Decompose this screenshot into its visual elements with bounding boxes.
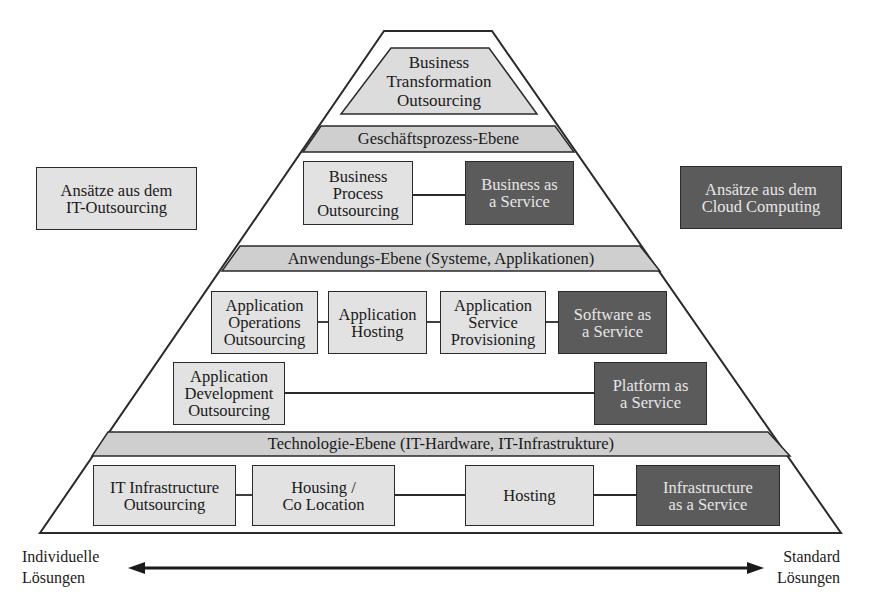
band-label-business-process: Geschäftsprozess-Ebene [303,129,574,149]
box-it-infrastructure-outsourcing: IT Infrastructure Outsourcing [93,465,236,526]
legend-cloud-computing: Ansätze aus dem Cloud Computing [680,166,842,229]
box-business-as-a-service: Business as a Service [465,161,574,225]
box-software-as-a-service: Software as a Service [558,291,667,354]
box-application-development-outsourcing: Application Development Outsourcing [173,362,285,425]
box-application-service-provisioning: Application Service Provisioning [440,291,546,354]
box-business-process-outsourcing: Business Process Outsourcing [303,161,413,225]
band-label-technology: Technologie-Ebene (IT-Hardware, IT-Infra… [92,434,790,454]
apex-business-transformation-outsourcing: Business Transformation Outsourcing [351,53,527,110]
axis-label-standard-solutions: Standard Lösungen [740,546,840,588]
box-application-hosting: Application Hosting [328,291,427,354]
box-platform-as-a-service: Platform as a Service [594,362,707,425]
band-label-application: Anwendungs-Ebene (Systeme, Applikationen… [222,249,660,269]
box-hosting: Hosting [465,465,594,526]
axis-label-individual-solutions: Individuelle Lösungen [22,546,99,588]
axis-arrowhead-left [128,562,145,574]
box-infrastructure-as-a-service: Infrastructure as a Service [636,465,780,526]
box-application-operations-outsourcing: Application Operations Outsourcing [211,291,318,354]
legend-it-outsourcing: Ansätze aus dem IT-Outsourcing [36,167,197,230]
box-housing-co-location: Housing / Co Location [252,465,395,526]
it-outsourcing-cloud-pyramid-diagram: Business Transformation Outsourcing Gesc… [0,0,871,611]
